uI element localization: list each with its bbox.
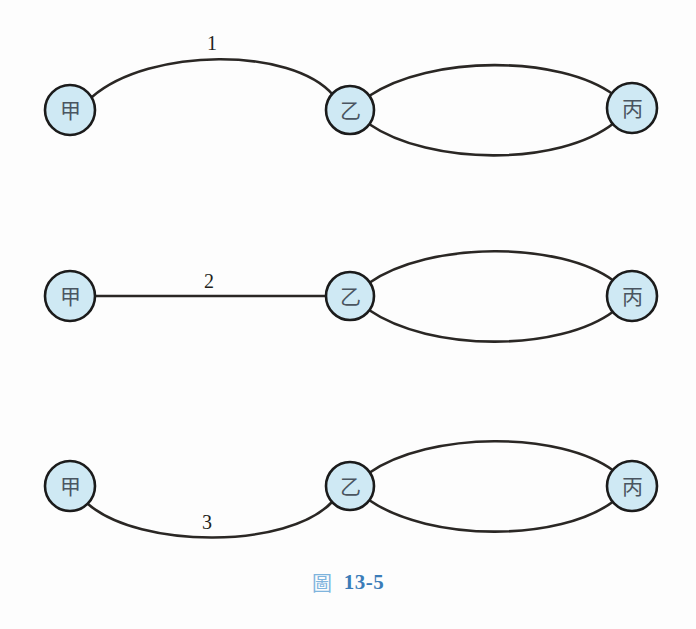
row1-edge-yi-bing-top	[369, 65, 614, 96]
graph-row-1: 甲 乙 丙 1	[45, 32, 657, 155]
row2-node-yi-label: 乙	[340, 285, 361, 309]
figure-container: 甲 乙 丙 1 甲 乙 丙 2 甲 乙	[0, 0, 696, 629]
multigraph-diagram: 甲 乙 丙 1 甲 乙 丙 2 甲 乙	[0, 0, 696, 629]
row3-node-yi-label: 乙	[340, 475, 361, 499]
row1-node-bing-label: 丙	[622, 97, 643, 121]
row1-node-jia-label: 甲	[60, 99, 81, 123]
figure-caption: 圖13-5	[0, 568, 696, 597]
row2-node-jia-label: 甲	[60, 285, 81, 309]
figure-caption-glyph: 圖	[312, 568, 332, 597]
row2-node-bing-label: 丙	[622, 285, 643, 309]
row1-edge-yi-bing-bottom	[369, 123, 614, 155]
row2-edge-yi-bing-bottom	[369, 310, 614, 342]
row3-node-bing-label: 丙	[622, 475, 643, 499]
graph-row-2: 甲 乙 丙 2	[45, 251, 657, 341]
row1-edge-label: 1	[207, 32, 217, 54]
row1-node-yi-label: 乙	[340, 99, 361, 123]
row2-edge-yi-bing-top	[369, 251, 614, 283]
row1-edge-jia-yi	[92, 59, 333, 97]
row2-edge-label: 2	[204, 270, 214, 292]
row3-edge-label: 3	[202, 511, 212, 533]
row3-edge-yi-bing-top	[369, 441, 614, 473]
row3-node-jia-label: 甲	[60, 475, 81, 499]
row3-edge-yi-bing-bottom	[369, 500, 614, 532]
graph-row-3: 甲 乙 丙 3	[45, 441, 657, 537]
figure-caption-number: 13-5	[344, 570, 385, 595]
